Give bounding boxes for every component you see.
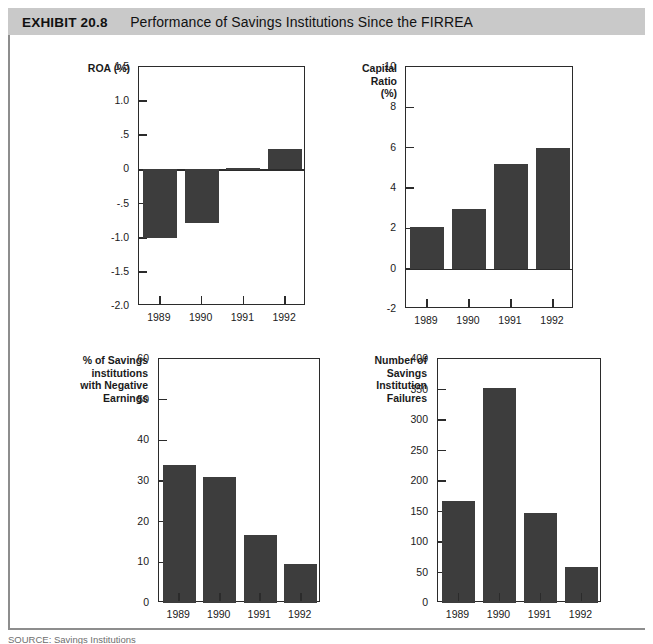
y-tick-mark bbox=[139, 271, 147, 273]
exhibit-title-label: Performance of Savings Institutions Sinc… bbox=[130, 14, 473, 30]
bar-1989 bbox=[143, 169, 177, 237]
y-axis-tick-label: 0 bbox=[73, 163, 129, 173]
y-axis-tick-label: 200 bbox=[372, 475, 428, 485]
zero-baseline bbox=[406, 269, 572, 271]
y-axis-tick-label: -2 bbox=[340, 303, 396, 313]
x-tick-mark bbox=[300, 593, 302, 601]
y-axis-tick-label: 0 bbox=[340, 263, 396, 273]
y-axis-tick-label: 50 bbox=[372, 567, 428, 577]
bar-1990 bbox=[185, 169, 219, 222]
y-axis-tick-label: 1.0 bbox=[73, 95, 129, 105]
x-tick-mark bbox=[458, 593, 460, 601]
y-axis-tick-label: -2.0 bbox=[73, 300, 129, 310]
y-axis-tick-label: 30 bbox=[93, 475, 149, 485]
y-tick-mark bbox=[406, 107, 414, 109]
bar-1989 bbox=[410, 227, 444, 268]
y-axis-tick-label: 4 bbox=[340, 182, 396, 192]
y-axis-caption-roa: ROA (%) bbox=[55, 62, 130, 75]
x-tick-mark bbox=[499, 593, 501, 601]
y-axis-caption-failures: Number of Savings Institution Failures bbox=[337, 354, 427, 404]
source-note: SOURCE: Savings Institutions bbox=[8, 634, 136, 644]
y-tick-mark bbox=[159, 440, 167, 442]
x-tick-mark bbox=[426, 299, 428, 307]
plot-area-capital-ratio bbox=[405, 66, 573, 308]
bar-1991 bbox=[494, 164, 528, 269]
plot-area-roa bbox=[138, 66, 305, 305]
x-tick-mark bbox=[284, 296, 286, 304]
y-axis-tick-label: 300 bbox=[372, 414, 428, 424]
x-tick-mark bbox=[552, 299, 554, 307]
y-axis-tick-label: -.5 bbox=[73, 198, 129, 208]
y-axis-caption-capital-ratio: Capital Ratio (%) bbox=[322, 62, 397, 100]
y-axis-tick-label: 0 bbox=[372, 597, 428, 607]
y-tick-mark bbox=[159, 399, 167, 401]
y-axis-tick-label: 0 bbox=[93, 597, 149, 607]
exhibit-number-label: EXHIBIT 20.8 bbox=[22, 15, 108, 30]
y-axis-tick-label: 10 bbox=[93, 556, 149, 566]
y-tick-mark bbox=[139, 100, 147, 102]
y-axis-tick-label: 40 bbox=[93, 434, 149, 444]
y-axis-tick-label: .5 bbox=[73, 129, 129, 139]
x-axis-tick-label: 1992 bbox=[275, 608, 325, 620]
x-tick-mark bbox=[259, 593, 261, 601]
bar-1990 bbox=[203, 477, 236, 603]
bar-1991 bbox=[226, 168, 260, 170]
x-tick-mark bbox=[219, 593, 221, 601]
exhibit-header-text: EXHIBIT 20.8 Performance of Savings Inst… bbox=[22, 13, 473, 31]
x-axis-tick-label: 1992 bbox=[527, 314, 577, 326]
y-axis-tick-label: 250 bbox=[372, 445, 428, 455]
bar-1990 bbox=[483, 388, 516, 603]
x-tick-mark bbox=[178, 593, 180, 601]
y-axis-caption-negative-earnings: % of Savings institutions with Negative … bbox=[48, 354, 148, 404]
bar-1992 bbox=[536, 148, 570, 269]
y-tick-mark bbox=[406, 147, 414, 149]
y-axis-tick-label: 6 bbox=[340, 142, 396, 152]
y-tick-mark bbox=[406, 187, 414, 189]
x-tick-mark bbox=[540, 593, 542, 601]
exhibit-header-band: EXHIBIT 20.8 Performance of Savings Inst… bbox=[8, 8, 645, 35]
y-tick-mark bbox=[139, 134, 147, 136]
bar-1989 bbox=[442, 501, 475, 603]
x-axis-tick-label: 1992 bbox=[259, 311, 309, 323]
y-axis-tick-label: -1.0 bbox=[73, 232, 129, 242]
x-tick-mark bbox=[468, 299, 470, 307]
y-axis-tick-label: -1.5 bbox=[73, 266, 129, 276]
y-tick-mark bbox=[438, 419, 446, 421]
bar-1991 bbox=[524, 513, 557, 603]
y-axis-tick-label: 150 bbox=[372, 506, 428, 516]
y-tick-mark bbox=[438, 450, 446, 452]
bar-1992 bbox=[268, 149, 302, 169]
x-tick-mark bbox=[159, 296, 161, 304]
plot-area-failures bbox=[437, 358, 601, 602]
x-tick-mark bbox=[243, 296, 245, 304]
y-tick-mark bbox=[438, 480, 446, 482]
bar-1989 bbox=[163, 465, 196, 603]
y-axis-tick-label: 2 bbox=[340, 222, 396, 232]
y-axis-tick-label: 8 bbox=[340, 101, 396, 111]
x-tick-mark bbox=[201, 296, 203, 304]
x-axis-tick-label: 1992 bbox=[556, 608, 606, 620]
y-tick-mark bbox=[438, 389, 446, 391]
y-axis-tick-label: 20 bbox=[93, 516, 149, 526]
bar-1990 bbox=[452, 209, 486, 268]
plot-area-negative-earnings bbox=[158, 358, 320, 602]
x-tick-mark bbox=[581, 593, 583, 601]
x-tick-mark bbox=[510, 299, 512, 307]
y-axis-tick-label: 100 bbox=[372, 536, 428, 546]
